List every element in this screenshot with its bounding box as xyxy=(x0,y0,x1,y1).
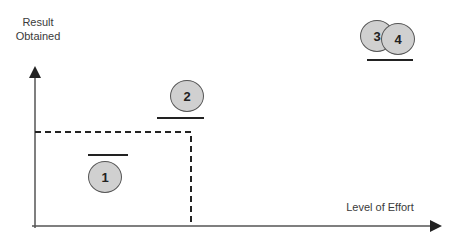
effort-result-diagram: Result Obtained Level of Effort 1 2 3 4 xyxy=(0,0,455,240)
y-axis-label-line2: Obtained xyxy=(8,29,68,43)
marker-2-bar xyxy=(157,117,204,119)
y-axis-label-line1: Result xyxy=(8,15,68,29)
marker-2-circle: 2 xyxy=(170,80,204,112)
marker-4-circle: 4 xyxy=(381,23,415,55)
x-axis-label: Level of Effort xyxy=(330,200,430,214)
marker-1-circle: 1 xyxy=(88,161,122,193)
y-axis-label: Result Obtained xyxy=(8,15,68,43)
marker-3-4-bar xyxy=(367,59,413,61)
marker-1-bar xyxy=(88,154,128,156)
